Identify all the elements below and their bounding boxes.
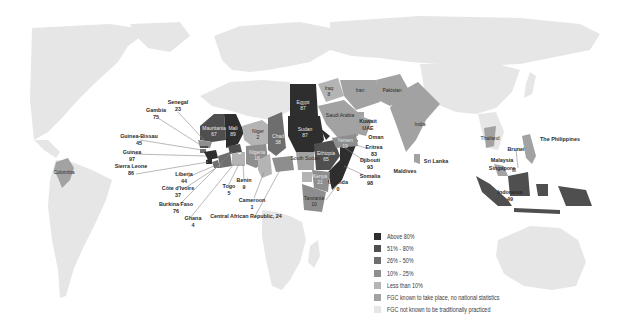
svg-text:Eritrea: Eritrea	[365, 144, 383, 150]
svg-text:87: 87	[300, 105, 306, 111]
svg-text:Maldives: Maldives	[394, 168, 417, 174]
country-indonesia	[476, 172, 592, 214]
svg-text:10: 10	[311, 201, 317, 207]
country-ghana	[232, 152, 238, 166]
country-benin	[241, 152, 245, 166]
svg-text:23: 23	[175, 106, 181, 112]
country-liberia	[212, 160, 220, 168]
svg-text:Brunei: Brunei	[507, 146, 525, 152]
country-sri-lanka	[414, 154, 420, 164]
svg-text:Liberia: Liberia	[175, 171, 194, 177]
legend-item-not-practiced: FGC not known to be traditionally practi…	[374, 304, 524, 316]
svg-text:Ghana: Ghana	[185, 215, 203, 221]
svg-text:45: 45	[136, 140, 142, 146]
legend-swatch	[374, 306, 381, 313]
svg-text:Saudi Arabia: Saudi Arabia	[326, 112, 355, 118]
world-map: Senegal 23 Gambia 75 Guinea-Bissau 45 Gu…	[0, 0, 617, 330]
svg-text:67: 67	[211, 131, 217, 137]
west-africa	[198, 112, 294, 178]
legend-item-51-80: 51% - 80%	[374, 242, 524, 254]
svg-text:9: 9	[243, 184, 246, 190]
legend-label: 10% - 25%	[387, 270, 413, 277]
svg-text:Côte d'Ivoire: Côte d'Ivoire	[162, 185, 194, 191]
svg-text:Burkina Faso: Burkina Faso	[159, 201, 194, 207]
svg-text:Cameroon: Cameroon	[239, 197, 266, 203]
svg-text:97: 97	[129, 156, 135, 162]
legend-item-less-10: Less than 10%	[374, 279, 524, 291]
svg-text:19: 19	[342, 143, 348, 149]
svg-text:86: 86	[128, 170, 134, 176]
svg-text:65: 65	[323, 156, 329, 162]
svg-text:83: 83	[371, 151, 377, 157]
svg-text:1: 1	[251, 204, 254, 210]
country-gambia	[200, 146, 208, 148]
legend-label: FGC not known to be traditionally practi…	[387, 306, 490, 313]
svg-text:Somalia: Somalia	[360, 173, 382, 179]
svg-text:37: 37	[175, 192, 181, 198]
svg-text:The Philippines: The Philippines	[540, 136, 580, 142]
svg-text:Gambia: Gambia	[146, 107, 167, 113]
svg-text:Iran: Iran	[356, 87, 365, 93]
legend-swatch	[374, 257, 381, 264]
svg-text:Senegal: Senegal	[168, 99, 189, 105]
svg-text:Sierra Leone: Sierra Leone	[115, 163, 148, 169]
legend-swatch	[374, 294, 381, 301]
svg-text:5: 5	[228, 190, 231, 196]
svg-text:Kuwait: Kuwait	[359, 118, 377, 124]
svg-text:38: 38	[275, 139, 281, 145]
svg-text:98: 98	[367, 180, 373, 186]
svg-text:76: 76	[173, 208, 179, 214]
legend-swatch	[374, 233, 381, 240]
svg-text:Singapore: Singapore	[489, 165, 515, 171]
svg-text:2: 2	[257, 134, 260, 140]
svg-text:South Sudan: South Sudan	[291, 155, 320, 161]
svg-text:India: India	[415, 121, 426, 127]
legend-item-10-25: 10% - 25%	[374, 267, 524, 279]
legend-label: Above 80%	[387, 233, 415, 240]
legend-swatch	[374, 245, 381, 252]
svg-text:89: 89	[230, 131, 236, 137]
legend-label: Less than 10%	[387, 282, 423, 289]
svg-text:Thailand: Thailand	[480, 135, 499, 141]
svg-text:Oman: Oman	[368, 134, 383, 140]
svg-text:Central African Republic, 24: Central African Republic, 24	[210, 213, 282, 219]
svg-text:Uganda: Uganda	[328, 179, 349, 185]
svg-text:75: 75	[153, 114, 159, 120]
legend-item-26-50: 26% - 50%	[374, 255, 524, 267]
legend-swatch	[374, 270, 381, 277]
svg-text:Guinea: Guinea	[123, 149, 142, 155]
svg-text:21: 21	[317, 179, 323, 185]
svg-text:Djibouti: Djibouti	[360, 157, 381, 163]
svg-text:Colombia: Colombia	[53, 169, 74, 175]
svg-text:93: 93	[367, 164, 373, 170]
legend-item-no-stats: FGC known to take place, no national sta…	[374, 291, 524, 303]
country-uganda	[302, 172, 312, 182]
svg-text:8: 8	[328, 91, 331, 97]
legend-item-above-80: Above 80%	[374, 230, 524, 242]
country-togo	[238, 154, 241, 166]
svg-text:18: 18	[254, 155, 260, 161]
svg-text:87: 87	[302, 132, 308, 138]
svg-text:Togo: Togo	[223, 183, 236, 189]
svg-text:UAE: UAE	[362, 125, 374, 131]
svg-text:Benin: Benin	[237, 177, 252, 183]
legend-label: 26% - 50%	[387, 257, 413, 264]
svg-text:Guinea-Bissau: Guinea-Bissau	[120, 133, 158, 139]
svg-text:44: 44	[181, 178, 187, 184]
svg-text:Indonesia: Indonesia	[497, 189, 523, 195]
legend-swatch	[374, 282, 381, 289]
svg-text:4: 4	[192, 222, 195, 228]
svg-text:0: 0	[337, 186, 340, 192]
legend-label: 51% - 80%	[387, 245, 413, 252]
svg-text:Sri Lanka: Sri Lanka	[424, 158, 449, 164]
svg-text:Pakistan: Pakistan	[382, 87, 401, 93]
map-legend: Above 80% 51% - 80% 26% - 50% 10% - 25% …	[374, 230, 524, 316]
svg-text:49: 49	[507, 196, 513, 202]
legend-label: FGC known to take place, no national sta…	[387, 294, 499, 301]
svg-text:Malaysia: Malaysia	[491, 157, 514, 163]
